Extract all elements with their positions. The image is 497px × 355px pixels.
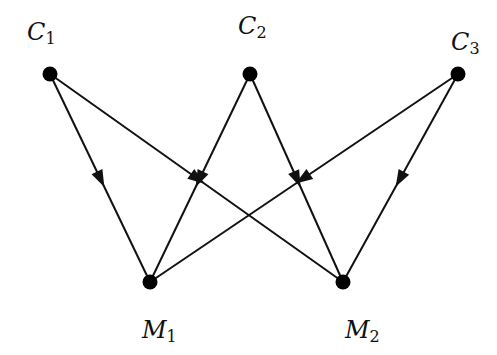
- label-subscript: 2: [256, 23, 266, 42]
- diagram-canvas: [0, 0, 497, 355]
- label-letter: C: [451, 28, 469, 56]
- arrowhead-icon: [396, 169, 409, 187]
- node-c3: [451, 67, 466, 82]
- label-letter: M: [142, 316, 167, 344]
- label-subscript: 1: [45, 29, 55, 48]
- label-subscript: 1: [167, 327, 177, 346]
- label-letter: M: [345, 316, 370, 344]
- label-letter: C: [238, 12, 256, 40]
- node-m1: [143, 275, 158, 290]
- label-c1: C1: [27, 20, 56, 47]
- label-m2: M2: [345, 318, 380, 345]
- label-c3: C3: [451, 30, 480, 57]
- edges-group: [50, 74, 458, 282]
- node-c2: [243, 67, 258, 82]
- label-m1: M1: [142, 318, 177, 345]
- label-c2: C2: [238, 14, 267, 41]
- label-letter: C: [27, 18, 45, 46]
- node-m2: [336, 275, 351, 290]
- arrowhead-icon: [92, 169, 105, 187]
- label-subscript: 3: [469, 39, 479, 58]
- node-c1: [43, 67, 58, 82]
- label-subscript: 2: [370, 327, 380, 346]
